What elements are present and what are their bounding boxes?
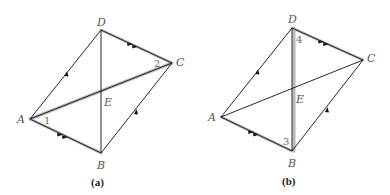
point-label-a: A — [16, 113, 25, 126]
figure-a: A B C D E 1 2 (a) — [16, 16, 185, 189]
point-label-a: A — [207, 111, 216, 124]
point-label-d: D — [287, 13, 297, 26]
point-label-c: C — [176, 56, 185, 69]
angle-label-3: 3 — [283, 136, 289, 147]
point-label-c: C — [367, 52, 376, 65]
caption-a: (a) — [91, 176, 104, 189]
angle-label-1: 1 — [44, 115, 50, 126]
point-label-d: D — [96, 16, 106, 29]
parallelogram-diagrams: A B C D E 1 2 (a) A B C D E 4 3 — [0, 0, 390, 195]
point-label-b: B — [96, 159, 105, 172]
angle-label-2: 2 — [154, 58, 160, 69]
angle-label-4: 4 — [296, 34, 302, 45]
point-label-e: E — [295, 93, 304, 106]
point-label-b: B — [287, 157, 296, 170]
figure-b: A B C D E 4 3 (b) — [207, 13, 376, 188]
caption-b: (b) — [282, 175, 296, 188]
point-label-e: E — [103, 96, 112, 109]
side-ba — [30, 119, 101, 153]
